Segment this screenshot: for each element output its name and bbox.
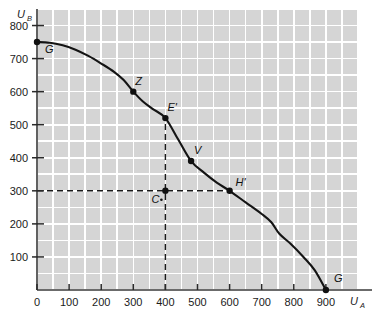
marker-dot-Z	[130, 88, 136, 94]
marker-dot-E-prime	[162, 115, 168, 121]
marker-label-Z: Z	[134, 75, 143, 87]
x-tick-label-400: 400	[156, 296, 174, 308]
y-axis-title-subscript: B	[27, 14, 32, 23]
x-tick-label-600: 600	[220, 296, 238, 308]
marker-label-E-prime: E'	[167, 101, 177, 113]
marker-label-G: G	[45, 43, 54, 55]
marker-label-G: G	[334, 272, 343, 284]
marker-dot-G	[34, 39, 40, 45]
x-tick-label-700: 700	[253, 296, 271, 308]
x-tick-label-100: 100	[60, 296, 78, 308]
chart-svg: 0100200300400500600700800900100200300400…	[0, 0, 376, 312]
y-tick-label-100: 100	[10, 251, 28, 263]
x-tick-label-500: 500	[188, 296, 206, 308]
x-tick-label-200: 200	[92, 296, 110, 308]
marker-dot-H-prime	[226, 188, 232, 194]
y-tick-label-500: 500	[10, 119, 28, 131]
marker-label-C: C	[151, 193, 159, 205]
y-tick-label-800: 800	[10, 20, 28, 32]
y-tick-label-300: 300	[10, 185, 28, 197]
y-tick-label-700: 700	[10, 53, 28, 65]
marker-dot-V	[188, 158, 194, 164]
utility-possibility-frontier-chart: 0100200300400500600700800900100200300400…	[0, 0, 376, 312]
marker-dot-C	[162, 188, 168, 194]
y-axis-title: U	[17, 8, 25, 20]
x-tick-label-0: 0	[34, 296, 40, 308]
y-tick-label-400: 400	[10, 152, 28, 164]
y-tick-label-600: 600	[10, 86, 28, 98]
x-tick-label-800: 800	[285, 296, 303, 308]
x-axis-title-subscript: A	[359, 301, 365, 310]
marker-label-H-prime: H'	[236, 176, 247, 188]
marker-dot-G	[323, 287, 329, 293]
x-axis-title: U	[350, 295, 358, 307]
c-point-dot-marker	[160, 199, 163, 202]
x-tick-label-900: 900	[317, 296, 335, 308]
x-tick-label-300: 300	[124, 296, 142, 308]
y-tick-label-200: 200	[10, 218, 28, 230]
